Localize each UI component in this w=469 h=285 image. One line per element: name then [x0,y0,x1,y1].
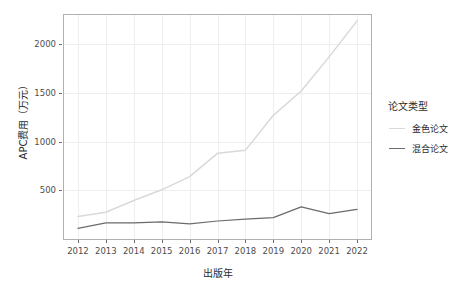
x-tick-mark [106,240,107,243]
legend-item-gold[interactable]: 金色论文 [388,122,468,135]
series-line [78,207,357,228]
legend: 论文类型 金色论文 混合论文 [388,98,468,162]
x-tick-mark [78,240,79,243]
series-line [78,21,357,217]
y-axis-title: APC费用（万元） [15,50,30,190]
legend-line-swatch-gold [388,124,406,134]
x-tick-label: 2012 [67,246,89,256]
x-tick-mark [329,240,330,243]
legend-title: 论文类型 [388,98,468,113]
x-tick-mark [273,240,274,243]
y-tick-label: 500 [40,185,56,195]
x-tick-mark [357,240,358,243]
chart-root: 500100015002000 APC费用（万元） 20122013201420… [0,0,469,285]
y-tick-label: 2000 [34,39,56,49]
y-tick-mark [59,190,62,191]
x-tick-mark [162,240,163,243]
y-tick-label: 1500 [34,88,56,98]
legend-item-hybrid[interactable]: 混合论文 [388,142,468,155]
x-tick-mark [301,240,302,243]
legend-label-hybrid: 混合论文 [412,142,448,155]
x-tick-label: 2018 [235,246,257,256]
x-tick-label: 2020 [290,246,312,256]
x-tick-label: 2015 [151,246,173,256]
legend-label-gold: 金色论文 [412,122,448,135]
y-tick-mark [59,142,62,143]
x-tick-mark [245,240,246,243]
x-tick-label: 2016 [179,246,201,256]
x-tick-mark [190,240,191,243]
x-tick-mark [218,240,219,243]
plot-panel [63,14,372,240]
x-tick-label: 2021 [318,246,340,256]
x-tick-mark [134,240,135,243]
y-tick-label: 1000 [34,137,56,147]
y-tick-mark [59,44,62,45]
x-tick-label: 2013 [95,246,117,256]
x-axis-title: 出版年 [63,265,372,280]
x-tick-label: 2017 [207,246,229,256]
series-lines [64,15,371,239]
legend-line-swatch-hybrid [388,144,406,154]
x-tick-label: 2014 [123,246,145,256]
x-tick-label: 2022 [346,246,368,256]
x-tick-label: 2019 [262,246,284,256]
y-tick-mark [59,93,62,94]
